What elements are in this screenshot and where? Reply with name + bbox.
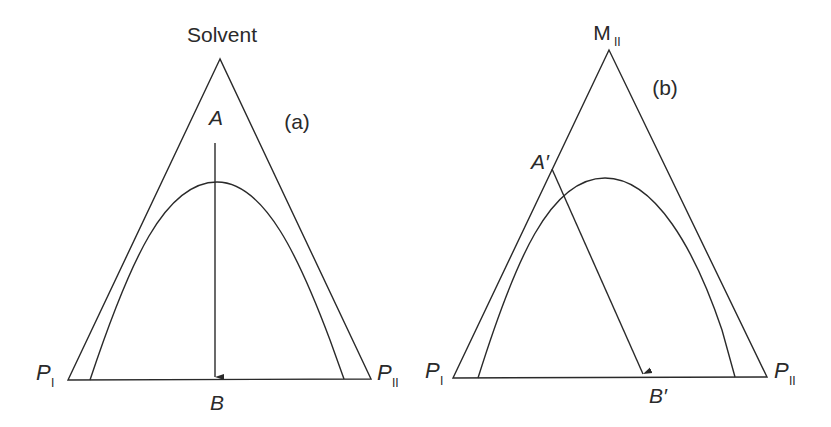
- vertex-label-p1-a: P: [36, 360, 51, 385]
- point-label-a: A: [207, 106, 223, 129]
- vertex-label-p2-a: P: [377, 360, 392, 385]
- panel-a: Solvent A (a) P I P II B: [36, 23, 399, 414]
- panel-b: M II (b) A′ P I P II B′: [425, 21, 796, 407]
- point-label-b-prime: B′: [649, 384, 668, 407]
- binodal-curve-a: [90, 182, 344, 380]
- apex-label-solvent: Solvent: [187, 23, 257, 46]
- panel-tag-a: (a): [284, 110, 310, 133]
- point-label-a-prime: A′: [529, 150, 550, 173]
- panel-tag-b: (b): [652, 76, 678, 99]
- vertex-label-p2-b: P: [774, 358, 789, 383]
- phase-diagram-figure: Solvent A (a) P I P II B M II (b) A′ P I…: [0, 0, 831, 427]
- point-label-b: B: [210, 391, 224, 414]
- ternary-triangle-b: [453, 50, 767, 378]
- binodal-curve-b: [478, 178, 735, 378]
- diagram-canvas: Solvent A (a) P I P II B M II (b) A′ P I…: [0, 0, 831, 427]
- vertex-sub-p1-a: I: [51, 376, 54, 390]
- vertex-sub-p2-b: II: [789, 374, 796, 388]
- vertex-sub-p1-b: I: [440, 374, 443, 388]
- apex-sub-m2: II: [614, 35, 621, 49]
- vertex-sub-p2-a: II: [392, 376, 399, 390]
- apex-label-m2: M: [593, 21, 611, 44]
- tie-path-arrow-b: [552, 169, 643, 374]
- vertex-label-p1-b: P: [425, 358, 440, 383]
